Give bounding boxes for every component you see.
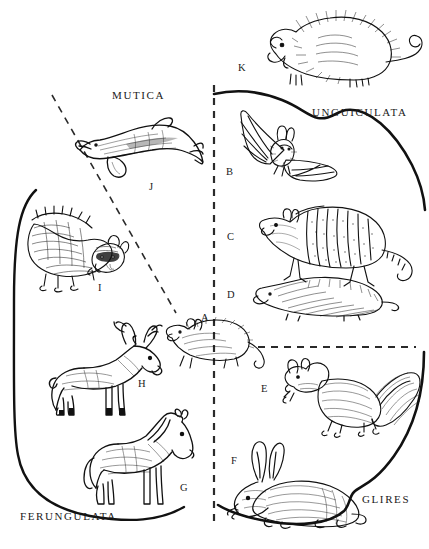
animal-opossum (160, 316, 270, 372)
item-label-c: C (227, 231, 234, 242)
group-label-glires: GLIRES (362, 493, 410, 505)
animal-squirrel (272, 355, 422, 437)
item-label-a: A (201, 312, 209, 323)
animal-rabbit (222, 440, 382, 530)
group-label-mutica: MUTICA (112, 89, 165, 101)
animal-raccoon (20, 196, 132, 294)
item-label-i: I (98, 282, 102, 293)
item-label-k: K (238, 62, 246, 73)
group-label-ferungulata: FERUNGULATA (20, 510, 117, 522)
animal-horse (82, 408, 204, 508)
item-label-g: G (180, 482, 188, 493)
item-label-b: B (226, 166, 233, 177)
item-label-e: E (261, 383, 267, 394)
taxonomic-figure: MUTICA UNGUICULATA GLIRES FERUNGULATA A … (0, 0, 429, 549)
animal-bat (222, 108, 350, 186)
item-label-f: F (231, 455, 237, 466)
animal-dolphin (74, 116, 204, 180)
item-label-j: J (149, 181, 153, 192)
group-label-unguiculata: UNGUICULATA (312, 106, 408, 118)
animal-deer (48, 320, 173, 415)
animal-mole (248, 272, 400, 322)
animal-shrew-opossum (258, 8, 426, 90)
item-label-d: D (227, 289, 235, 300)
item-label-h: H (138, 378, 146, 389)
